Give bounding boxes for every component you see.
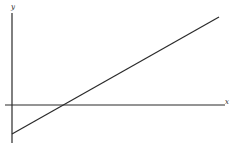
x-axis-label: x [225, 98, 229, 106]
diagram-canvas: y x [0, 0, 230, 149]
y-axis-label: y [10, 3, 16, 11]
linear-function-line [12, 17, 219, 134]
